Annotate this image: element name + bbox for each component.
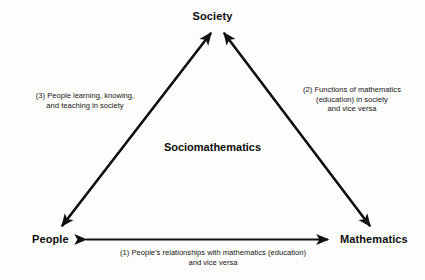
caption-people-mathematics: (1) People's relationships with mathemat… [98,248,328,267]
node-society: Society [0,10,425,22]
edge-society-to-people [62,33,211,226]
caption-people-society: (3) People learning, knowing,and teachin… [10,91,160,110]
node-mathematics: Mathematics [340,233,408,245]
node-people: People [32,233,69,245]
edge-society-to-mathematics [224,33,370,226]
caption-mathematics-society: (2) Functions of mathematics(education) … [286,85,418,114]
center-label-sociomathematics: Sociomathematics [0,141,425,153]
sociomathematics-diagram: Society People Mathematics Sociomathemat… [0,0,425,280]
